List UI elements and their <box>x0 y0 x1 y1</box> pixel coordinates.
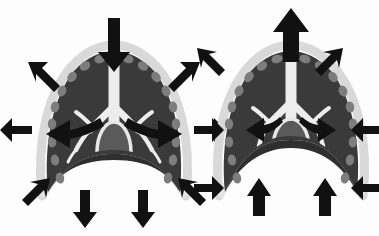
rib-dot <box>48 118 56 129</box>
respiration-diagram-canvas: Inhalation Exhalation <box>0 0 379 236</box>
rib-dot <box>172 118 180 129</box>
rib-dot <box>225 118 233 129</box>
respiration-diagram-svg <box>0 0 379 236</box>
